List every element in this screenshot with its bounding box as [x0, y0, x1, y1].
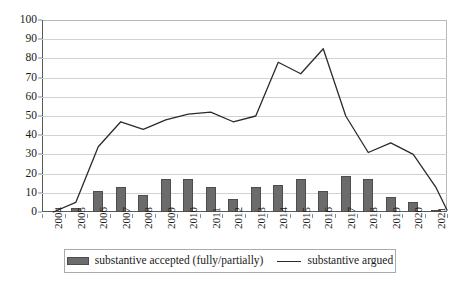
bar-swatch-icon — [67, 257, 89, 265]
legend-item-argued: substantive argued — [277, 255, 393, 267]
x-axis-tick-label: 2016 — [323, 207, 334, 229]
x-axis-tick-label: 2018 — [368, 207, 379, 229]
x-axis-tick-mark — [87, 214, 88, 218]
x-axis-tick-label: 2017 — [346, 207, 357, 229]
y-axis-tick-label: 10 — [26, 187, 38, 199]
x-axis-tick-mark — [200, 214, 201, 218]
x-axis-slot: 2016 — [312, 214, 335, 248]
legend-label-argued: substantive argued — [307, 255, 393, 267]
x-axis-slot: 2015 — [290, 214, 313, 248]
x-axis-slot: 2013 — [245, 214, 268, 248]
x-axis-tick-mark — [155, 214, 156, 218]
bar-slot — [132, 20, 155, 212]
bar-slot — [177, 20, 200, 212]
x-axis-tick-mark — [312, 214, 313, 218]
x-axis-tick-label: 2012 — [233, 207, 244, 229]
bar-slot — [42, 20, 65, 212]
bar-slot — [222, 20, 245, 212]
bar-slot — [155, 20, 178, 212]
bar-slot — [290, 20, 313, 212]
x-axis-tick-label: 2005 — [76, 207, 87, 229]
x-axis-slot: 2005 — [65, 214, 88, 248]
x-axis-tick-mark — [222, 214, 223, 218]
x-axis-tick-mark — [65, 214, 66, 218]
x-axis-tick-label: 2014 — [278, 207, 289, 229]
x-axis-slot: 2007 — [110, 214, 133, 248]
x-axis-tick-label: 2007 — [121, 207, 132, 229]
x-axis-tick-mark — [402, 214, 403, 218]
y-axis-tick-label: 20 — [26, 168, 38, 180]
x-axis-tick-label: 2009 — [166, 207, 177, 229]
x-axis-tick-mark — [245, 214, 246, 218]
y-axis-tick-label: 60 — [26, 91, 38, 103]
bar-slot — [87, 20, 110, 212]
bar-slot — [245, 20, 268, 212]
bar-slot — [312, 20, 335, 212]
x-axis-tick-mark — [110, 214, 111, 218]
x-axis-tick-label: 2020 — [413, 207, 424, 229]
x-axis-tick-label: 2011 — [211, 207, 222, 229]
bar-slot — [425, 20, 448, 212]
x-axis-slot: 2019 — [380, 214, 403, 248]
y-axis-tick-label: 50 — [26, 110, 38, 122]
x-axis-tick-label: 2015 — [301, 207, 312, 229]
y-axis-tick-label: 80 — [26, 53, 38, 65]
x-axis-slot: 2018 — [357, 214, 380, 248]
x-axis-tick-mark — [335, 214, 336, 218]
x-axis-tick-label: 2013 — [256, 207, 267, 229]
x-axis-tick-mark — [380, 214, 381, 218]
x-axis-slot: 2012 — [222, 214, 245, 248]
x-axis-slot: 2017 — [335, 214, 358, 248]
bar-slot — [110, 20, 133, 212]
x-axis-tick-label: 2019 — [391, 207, 402, 229]
bar-slot — [267, 20, 290, 212]
x-axis-labels: 2004200520062007200820092010201120122013… — [42, 214, 447, 248]
x-axis-slot: 2011 — [200, 214, 223, 248]
x-axis-tick-mark — [42, 214, 43, 218]
y-axis-tick-label: 70 — [26, 72, 38, 84]
y-axis-tick-label: 100 — [20, 14, 37, 26]
bar-slot — [65, 20, 88, 212]
bar-slot — [335, 20, 358, 212]
y-axis-tick-label: 30 — [26, 149, 38, 161]
x-axis-tick-mark — [290, 214, 291, 218]
x-axis-slot: 2010 — [177, 214, 200, 248]
x-axis-tick-label: 2006 — [98, 207, 109, 229]
x-axis-slot: 2014 — [267, 214, 290, 248]
legend-item-accepted: substantive accepted (fully/partially) — [67, 255, 264, 267]
bar-slot — [200, 20, 223, 212]
x-axis-slot: 2021 — [425, 214, 448, 248]
x-axis-tick-mark — [267, 214, 268, 218]
x-axis-slot: 2006 — [87, 214, 110, 248]
line-swatch-icon — [277, 261, 301, 262]
x-axis-tick-label: 2021 — [436, 207, 447, 229]
x-axis-tick-mark — [425, 214, 426, 218]
y-axis-tick-label: 40 — [26, 129, 38, 141]
x-axis-slot: 2004 — [42, 214, 65, 248]
legend-label-accepted: substantive accepted (fully/partially) — [95, 255, 264, 267]
x-axis-slot: 2009 — [155, 214, 178, 248]
x-axis-tick-mark — [177, 214, 178, 218]
y-axis-tick-label: 90 — [26, 33, 38, 45]
x-axis-slot: 2008 — [132, 214, 155, 248]
x-axis-tick-label: 2010 — [188, 207, 199, 229]
bar-series — [42, 20, 447, 212]
chart-container: 0102030405060708090100 20042005200620072… — [0, 0, 460, 286]
x-axis-tick-label: 2004 — [53, 207, 64, 229]
plot-area: 0102030405060708090100 — [42, 20, 447, 212]
chart-legend: substantive accepted (fully/partially) s… — [64, 249, 396, 273]
x-axis-tick-mark — [132, 214, 133, 218]
x-axis-tick-mark — [447, 214, 448, 218]
bar-slot — [357, 20, 380, 212]
y-axis-tick-label: 0 — [31, 206, 37, 218]
x-axis-tick-mark — [357, 214, 358, 218]
x-axis-tick-label: 2008 — [143, 207, 154, 229]
x-axis-slot: 2020 — [402, 214, 425, 248]
bar-slot — [402, 20, 425, 212]
bar-slot — [380, 20, 403, 212]
